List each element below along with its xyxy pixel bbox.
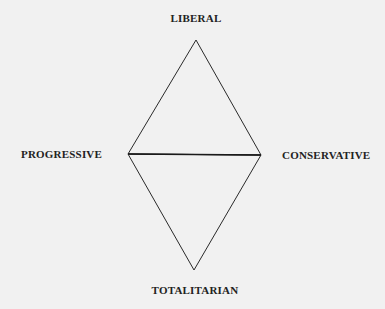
label-totalitarian: TOTALITARIAN: [0, 284, 385, 296]
label-liberal: LIBERAL: [0, 12, 385, 24]
label-conservative: CONSERVATIVE: [282, 149, 370, 161]
label-progressive: PROGRESSIVE: [21, 148, 102, 160]
horizontal-axis: [128, 154, 261, 155]
lower-triangle: [128, 154, 261, 270]
upper-triangle: [128, 40, 261, 155]
